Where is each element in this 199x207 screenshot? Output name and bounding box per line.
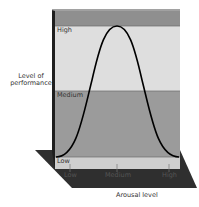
y-axis-label-line-2: performance — [10, 79, 52, 87]
level-label-medium: Medium — [57, 92, 83, 99]
top-band — [55, 11, 180, 26]
level-label-low: Low — [57, 158, 70, 165]
arousal-tick-low: Low — [64, 172, 77, 179]
panel-left-edge — [52, 10, 55, 169]
y-axis-label: Level of performance — [8, 73, 54, 88]
level-label-high: High — [57, 27, 72, 34]
arousal-tick-medium: Medium — [105, 172, 131, 179]
medium-band — [55, 91, 180, 157]
high-band — [55, 26, 180, 91]
low-band — [55, 157, 180, 169]
arousal-tick-high: High — [162, 172, 177, 179]
x-axis-label: Arousal level — [116, 192, 158, 199]
